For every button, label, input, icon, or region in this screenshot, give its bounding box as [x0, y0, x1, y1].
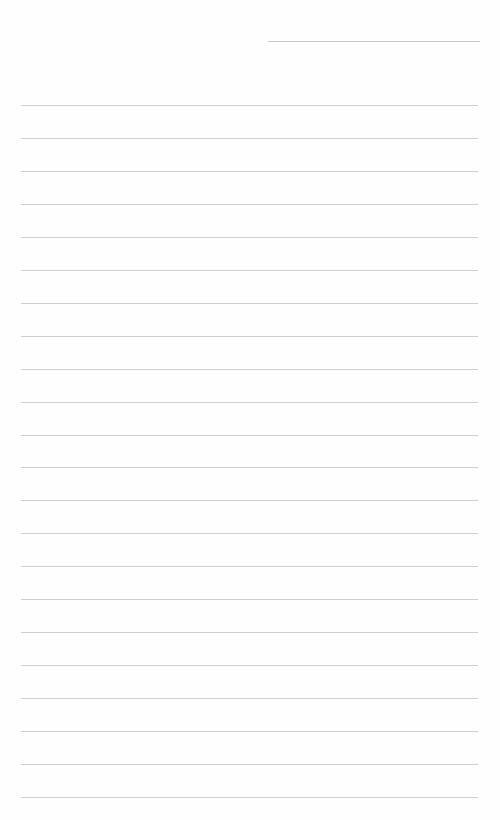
ruled-line: [21, 500, 478, 501]
ruled-line: [21, 237, 478, 238]
ruled-line: [21, 138, 478, 139]
ruled-line: [21, 467, 478, 468]
ruled-line: [21, 698, 478, 699]
ruled-line: [21, 270, 478, 271]
ruled-line: [21, 731, 478, 732]
ruled-line: [21, 336, 478, 337]
ruled-line: [21, 369, 478, 370]
ruled-line: [21, 764, 478, 765]
ruled-line: [21, 533, 478, 534]
ruled-line: [21, 566, 478, 567]
ruled-line: [21, 632, 478, 633]
ruled-line: [21, 665, 478, 666]
ruled-line: [21, 599, 478, 600]
ruled-line: [21, 303, 478, 304]
ruled-line: [21, 435, 478, 436]
ruled-line: [21, 204, 478, 205]
lined-paper-page: [0, 0, 500, 820]
ruled-line: [21, 402, 478, 403]
header-date-line: [268, 41, 480, 42]
ruled-line: [21, 105, 478, 106]
ruled-line: [21, 797, 478, 798]
ruled-line: [21, 171, 478, 172]
